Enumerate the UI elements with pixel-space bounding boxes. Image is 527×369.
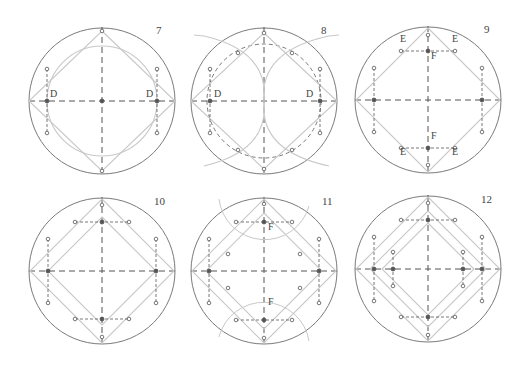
construction-point <box>207 269 211 273</box>
marker-point <box>208 131 212 135</box>
marker-point <box>461 284 465 288</box>
marker-point <box>155 131 159 135</box>
marker-point <box>45 131 49 135</box>
construction-point <box>45 99 49 103</box>
marker-point <box>318 131 322 135</box>
marker-point <box>298 252 302 256</box>
point-label-f: F <box>431 51 437 61</box>
marker-point <box>480 66 484 70</box>
construction-point <box>318 99 322 103</box>
marker-point <box>236 148 240 152</box>
marker-point <box>290 148 294 152</box>
marker-point <box>234 318 238 322</box>
point-label-f: F <box>268 222 274 232</box>
construction-point <box>46 269 50 273</box>
marker-point <box>208 67 212 71</box>
marker-point <box>100 203 104 207</box>
marker-point <box>45 67 49 71</box>
marker-point <box>226 286 230 290</box>
marker-point <box>426 201 430 205</box>
construction-point <box>372 267 376 271</box>
construction-point <box>100 99 104 103</box>
marker-point <box>127 317 131 321</box>
marker-point <box>73 220 77 224</box>
construction-point <box>426 315 430 319</box>
panel-number-12: 12 <box>481 193 492 205</box>
marker-point <box>480 299 484 303</box>
marker-point <box>426 163 430 167</box>
point-label-d: D <box>214 89 221 99</box>
construction-point <box>100 220 104 224</box>
panel-number-10: 10 <box>154 195 165 207</box>
marker-point <box>127 220 131 224</box>
marker-point <box>372 130 376 134</box>
marker-point <box>234 220 238 224</box>
point-label-d: D <box>306 89 313 99</box>
panel-number-7: 7 <box>156 24 162 36</box>
construction-point <box>262 220 266 224</box>
marker-point <box>236 51 240 55</box>
marker-point <box>226 252 230 256</box>
marker-point <box>262 167 266 171</box>
construction-point <box>480 267 484 271</box>
marker-point <box>399 49 403 53</box>
construction-point <box>426 218 430 222</box>
arc-arrow <box>194 35 204 36</box>
point-label-e: E <box>400 147 406 157</box>
construction-point <box>154 269 158 273</box>
construction-point <box>426 146 430 150</box>
marker-point <box>290 51 294 55</box>
marker-point <box>426 33 430 37</box>
construction-point <box>391 267 395 271</box>
construction-point <box>155 99 159 103</box>
construction-diagram: 7 8 9 10 11 12 DDDDEEFFEEFF <box>0 0 527 369</box>
marker-point <box>155 67 159 71</box>
marker-point <box>480 235 484 239</box>
construction-point <box>372 98 376 102</box>
point-label-e: E <box>452 147 458 157</box>
construction-point <box>461 267 465 271</box>
construction-point <box>480 98 484 102</box>
marker-point <box>317 301 321 305</box>
construction-point <box>100 317 104 321</box>
marker-point <box>372 235 376 239</box>
marker-point <box>100 29 104 33</box>
marker-point <box>461 250 465 254</box>
marker-point <box>262 202 266 206</box>
marker-point <box>372 299 376 303</box>
marker-point <box>426 333 430 337</box>
marker-point <box>453 49 457 53</box>
marker-point <box>298 286 302 290</box>
marker-point <box>207 237 211 241</box>
point-label-f: F <box>431 131 437 141</box>
marker-point <box>453 315 457 319</box>
marker-point <box>317 237 321 241</box>
construction-point <box>317 269 321 273</box>
panel-number-9: 9 <box>484 23 490 35</box>
point-label-f: F <box>268 297 274 307</box>
arc-arrow <box>329 35 339 36</box>
marker-point <box>207 301 211 305</box>
panel-number-11: 11 <box>322 195 333 207</box>
marker-point <box>391 284 395 288</box>
construction-point <box>426 49 430 53</box>
diagram-canvas <box>0 0 527 369</box>
marker-point <box>318 67 322 71</box>
marker-point <box>154 301 158 305</box>
marker-point <box>46 301 50 305</box>
marker-point <box>154 237 158 241</box>
marker-point <box>290 318 294 322</box>
marker-point <box>399 315 403 319</box>
point-label-d: D <box>50 89 57 99</box>
marker-point <box>73 317 77 321</box>
marker-point <box>391 250 395 254</box>
point-label-e: E <box>452 34 458 44</box>
marker-point <box>262 31 266 35</box>
point-label-e: E <box>400 34 406 44</box>
marker-point <box>290 220 294 224</box>
marker-point <box>100 335 104 339</box>
marker-point <box>46 237 50 241</box>
panel-number-8: 8 <box>321 24 327 36</box>
marker-point <box>100 169 104 173</box>
marker-point <box>372 66 376 70</box>
